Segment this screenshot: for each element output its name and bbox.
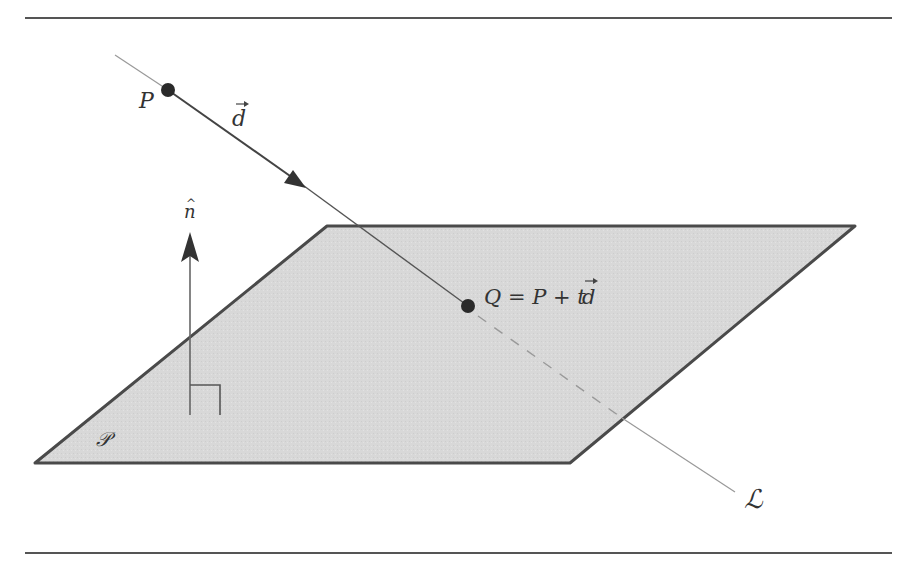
label-line-l: ℒ [744,484,764,514]
label-d-arrowhead-icon [244,101,249,107]
label-q-d: d [582,285,595,309]
line-l-lower [622,418,735,492]
direction-vector [168,90,300,183]
plane-p [35,226,855,463]
point-p [161,83,175,97]
direction-arrowhead-icon [284,170,306,188]
label-n-hat: ^ [186,197,196,211]
label-q-equation: Q = P + t [484,285,586,309]
point-q [461,299,475,313]
label-d: d [232,106,246,131]
line-l-upper [115,55,168,90]
diagram-canvas: P d n ^ Q = P + t d ℒ 𝒫 [0,0,899,577]
label-p: P [138,88,155,113]
